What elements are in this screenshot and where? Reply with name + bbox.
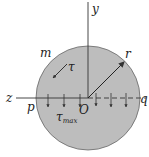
y-axis-label: y xyxy=(91,2,99,16)
tau-label: τ xyxy=(68,60,75,74)
point-p-label: p xyxy=(27,100,35,114)
tau-max-subscript: max xyxy=(63,117,78,125)
point-m-label: m xyxy=(40,46,51,60)
radius-label: r xyxy=(125,47,132,61)
z-axis-label: z xyxy=(5,91,13,105)
diagram-canvas: y z O r m p q τ τmax xyxy=(0,0,149,157)
point-q-label: q xyxy=(140,92,148,106)
origin-label: O xyxy=(79,103,89,117)
